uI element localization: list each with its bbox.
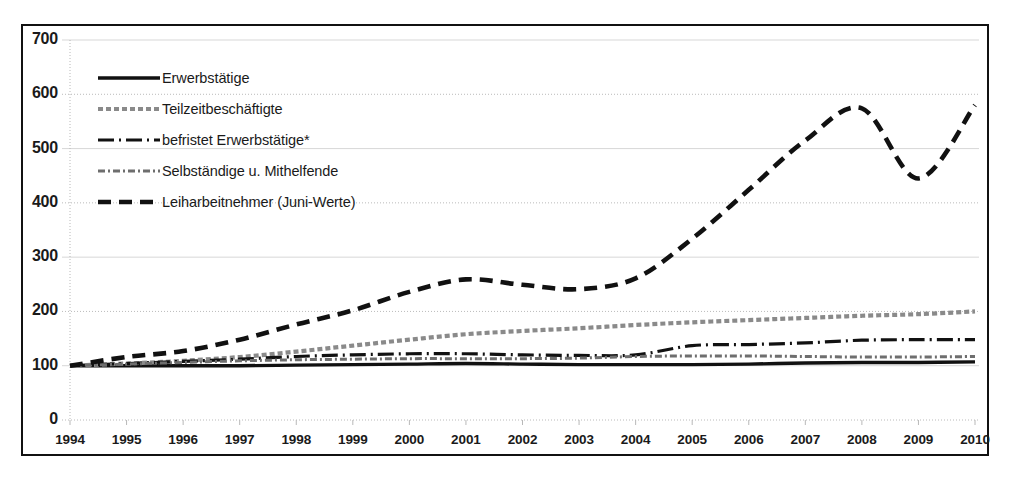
x-tick-label: 2000: [381, 432, 437, 447]
x-tick-label: 1999: [325, 432, 381, 447]
x-tick-label: 2005: [664, 432, 720, 447]
x-tick-label: 1997: [212, 432, 268, 447]
x-tick-label: 2010: [947, 432, 1003, 447]
x-tick-marks: [70, 420, 975, 425]
x-tick-label: 2003: [551, 432, 607, 447]
legend-item[interactable]: Erwerbstätige: [96, 62, 426, 93]
legend-item[interactable]: befristet Erwerbstätige*: [96, 124, 426, 155]
x-tick-label: 2002: [495, 432, 551, 447]
x-tick-label: 1995: [99, 432, 155, 447]
legend-swatch-solid-icon: [96, 69, 162, 87]
legend-swatch-gray-dash-dot-icon: [96, 162, 162, 180]
x-tick-label: 1996: [155, 432, 211, 447]
legend-item[interactable]: Teilzeitbeschäftigte: [96, 93, 426, 124]
legend-item-label: Erwerbstätige: [162, 70, 249, 86]
y-tick-label: 0: [14, 410, 58, 428]
x-tick-label: 2001: [438, 432, 494, 447]
y-tick-label: 300: [14, 247, 58, 265]
legend-item-label: Teilzeitbeschäftigte: [162, 101, 283, 117]
y-tick-label: 400: [14, 193, 58, 211]
x-tick-label: 1994: [42, 432, 98, 447]
y-tick-label: 100: [14, 356, 58, 374]
x-tick-label: 2004: [608, 432, 664, 447]
x-tick-label: 2007: [777, 432, 833, 447]
x-tick-label: 2009: [890, 432, 946, 447]
x-tick-label: 2006: [721, 432, 777, 447]
legend-item-label: Leiharbeitnehmer (Juni-Werte): [162, 194, 355, 210]
legend-swatch-long-dash-icon: [96, 193, 162, 211]
legend-swatch-dash-dot-icon: [96, 131, 162, 149]
y-tick-label: 200: [14, 301, 58, 319]
chart-container: 0100200300400500600700 19941995199619971…: [0, 0, 1011, 477]
legend-item-label: befristet Erwerbstätige*: [162, 132, 310, 148]
legend-swatch-fine-dotted-icon: [96, 100, 162, 118]
legend-item[interactable]: Leiharbeitnehmer (Juni-Werte): [96, 186, 426, 217]
x-tick-label: 1998: [268, 432, 324, 447]
legend-item-label: Selbständige u. Mithelfende: [162, 163, 338, 179]
y-tick-label: 700: [14, 30, 58, 48]
chart-legend: ErwerbstätigeTeilzeitbeschäftigtebefrist…: [96, 62, 426, 217]
legend-item[interactable]: Selbständige u. Mithelfende: [96, 155, 426, 186]
y-tick-label: 500: [14, 139, 58, 157]
y-tick-label: 600: [14, 84, 58, 102]
x-tick-label: 2008: [834, 432, 890, 447]
